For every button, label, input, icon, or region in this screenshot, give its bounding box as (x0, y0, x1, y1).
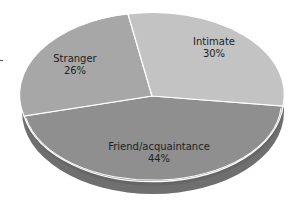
label-friend-acquaintance: Friend/acquaintance 44% (108, 141, 210, 165)
label-friend-name: Friend/acquaintance (108, 141, 210, 153)
label-stranger-pct: 26% (53, 65, 96, 77)
label-friend-pct: 44% (108, 153, 210, 165)
label-stranger: Stranger 26% (53, 53, 96, 77)
label-intimate-name: Intimate (193, 36, 235, 48)
pie-chart (0, 0, 299, 204)
label-intimate-pct: 30% (193, 48, 235, 60)
label-intimate: Intimate 30% (193, 36, 235, 60)
label-stranger-name: Stranger (53, 53, 96, 65)
